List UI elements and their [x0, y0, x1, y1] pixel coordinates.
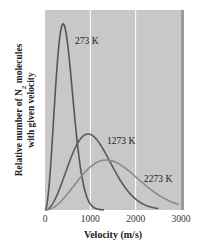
x-tick-label: 1000 [81, 214, 100, 224]
y-axis-label-line1-suffix: molecules [14, 43, 24, 85]
velocity-distribution-chart: 273 K1273 K2273 K 0100020003000 Velocity… [0, 0, 200, 251]
y-axis-label-line2: with given velocity [26, 72, 36, 148]
y-axis-label-line1: Relative number of N [14, 89, 24, 176]
x-tick-label: 0 [43, 214, 48, 224]
y-axis-label: Relative number of N2 molecules with giv… [14, 43, 36, 176]
x-axis-ticks: 0100020003000 [43, 214, 191, 224]
x-tick-label: 3000 [172, 214, 191, 224]
x-tick-label: 2000 [126, 214, 145, 224]
curve-label: 1273 K [107, 136, 135, 146]
curve-label: 2273 K [144, 174, 172, 184]
curve-label: 273 K [75, 36, 99, 46]
x-axis-label: Velocity (m/s) [84, 229, 142, 241]
